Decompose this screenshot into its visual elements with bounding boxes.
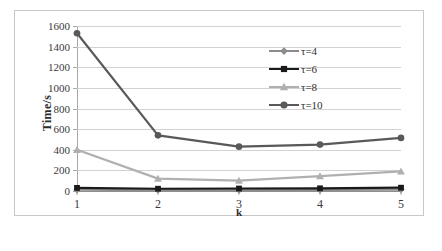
y-tick-label: 1600 — [48, 21, 70, 32]
y-tick-label: 800 — [54, 103, 71, 114]
series-line — [77, 150, 401, 181]
data-point — [317, 141, 324, 148]
data-point — [74, 30, 81, 37]
series-8 — [73, 146, 405, 184]
data-point — [317, 185, 323, 191]
data-point — [155, 186, 161, 192]
y-tick-label: 600 — [54, 124, 71, 135]
data-point — [280, 83, 288, 91]
legend-item[interactable]: τ=4 — [269, 42, 377, 60]
y-tick-label: 1000 — [48, 82, 70, 93]
chart-figure: Time/s 02004006008001000120014001600 123… — [14, 10, 424, 216]
data-point — [236, 143, 243, 150]
data-point — [281, 66, 287, 72]
legend-item[interactable]: τ=10 — [269, 96, 377, 114]
data-point — [236, 186, 242, 192]
y-tick-label: 200 — [54, 165, 71, 176]
chart-legend: τ=4τ=6τ=8τ=10 — [269, 42, 377, 114]
legend-label: τ=4 — [301, 46, 317, 57]
legend-item[interactable]: τ=6 — [269, 60, 377, 78]
y-tick-label: 0 — [65, 186, 71, 197]
y-tick-label: 400 — [54, 144, 71, 155]
y-axis-title: Time/s — [40, 95, 55, 131]
x-axis-title: k — [77, 206, 401, 218]
legend-marker-icon — [269, 44, 299, 58]
legend-label: τ=10 — [301, 100, 323, 111]
data-point — [155, 132, 162, 139]
plot-area: 02004006008001000120014001600 12345 τ=4τ… — [77, 26, 401, 191]
data-point — [398, 185, 404, 191]
legend-marker-icon — [269, 62, 299, 76]
legend-label: τ=6 — [301, 64, 317, 75]
data-point — [280, 101, 287, 108]
data-point — [280, 47, 288, 55]
legend-label: τ=8 — [301, 82, 317, 93]
legend-item[interactable]: τ=8 — [269, 78, 377, 96]
data-point — [398, 135, 405, 142]
data-point — [74, 185, 80, 191]
legend-marker-icon — [269, 80, 299, 94]
legend-marker-icon — [269, 98, 299, 112]
y-tick-label: 1200 — [48, 62, 70, 73]
y-tick-label: 1400 — [48, 41, 70, 52]
